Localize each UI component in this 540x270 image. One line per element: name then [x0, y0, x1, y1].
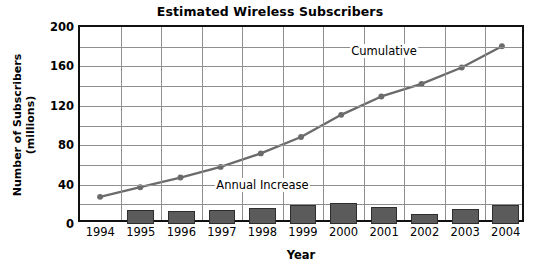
data-point-1999: [298, 134, 304, 140]
x-tick-label: 1999: [288, 225, 317, 239]
x-tick-label: 2004: [491, 225, 520, 239]
gridline-horizontal: [80, 66, 522, 67]
gridline-horizontal: [80, 47, 522, 48]
data-point-2001: [378, 94, 384, 100]
y-tick-label: 80: [58, 138, 74, 152]
plot-area: 0408012016020019941995199619971998199920…: [78, 25, 524, 222]
x-tick-label: 2001: [369, 225, 398, 239]
y-tick-label: 40: [58, 178, 74, 192]
bar-2003: [452, 209, 479, 224]
gridline-vertical: [202, 27, 203, 220]
y-axis-title-line1: Number of Subscribers: [11, 35, 24, 215]
gridline-horizontal: [80, 145, 522, 146]
gridline-horizontal: [80, 165, 522, 166]
gridline-vertical: [121, 27, 122, 220]
gridline-vertical: [161, 27, 162, 220]
x-tick-label: 1997: [207, 225, 236, 239]
x-tick-label: 2000: [329, 225, 358, 239]
y-tick-label: 160: [50, 59, 74, 73]
gridline-vertical: [485, 27, 486, 220]
y-tick-label: 0: [66, 217, 74, 231]
y-axis-title-line2: (millions): [24, 35, 37, 215]
gridline-vertical: [445, 27, 446, 220]
data-point-2000: [338, 112, 344, 118]
chart-container: Estimated Wireless Subscribers Number of…: [0, 0, 540, 270]
bar-1999: [290, 205, 317, 224]
x-tick-label: 1994: [86, 225, 115, 239]
bar-1997: [209, 210, 236, 224]
series-annotation-annual-increase: Annual Increase: [215, 178, 309, 192]
bar-2001: [371, 207, 398, 224]
data-point-1994: [97, 194, 103, 200]
bar-1998: [249, 208, 276, 224]
gridline-horizontal: [80, 126, 522, 127]
bar-2002: [411, 214, 438, 224]
y-tick-label: 120: [50, 99, 74, 113]
x-axis-title: Year: [78, 248, 524, 262]
y-tick-label: 200: [50, 20, 74, 34]
x-tick-label: 1995: [126, 225, 155, 239]
bar-1996: [168, 211, 195, 224]
gridline-horizontal: [80, 106, 522, 107]
x-tick-label: 1996: [167, 225, 196, 239]
gridline-horizontal: [80, 86, 522, 87]
data-point-1996: [177, 175, 183, 181]
bar-2000: [330, 203, 357, 224]
data-point-1998: [258, 150, 264, 156]
bar-2004: [492, 205, 519, 224]
series-annotation-cumulative: Cumulative: [350, 44, 418, 58]
x-tick-label: 2002: [410, 225, 439, 239]
gridline-vertical: [323, 27, 324, 220]
chart-title: Estimated Wireless Subscribers: [0, 4, 540, 19]
x-tick-label: 2003: [451, 225, 480, 239]
bar-1995: [127, 210, 154, 224]
y-axis-title: Number of Subscribers (millions): [11, 35, 37, 215]
x-tick-label: 1998: [248, 225, 277, 239]
